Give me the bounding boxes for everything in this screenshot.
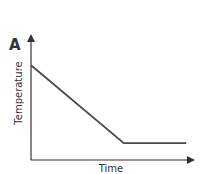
y-axis-label: Temperature: [13, 61, 24, 125]
chart: A Temperature Time: [0, 0, 202, 174]
x-axis-label: Time: [98, 163, 123, 174]
panel-label: A: [9, 36, 21, 54]
series-line-temperature: [31, 65, 186, 143]
